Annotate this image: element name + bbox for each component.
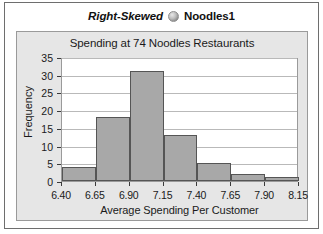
histogram-bar — [164, 135, 198, 181]
figure-card: Right-Skewed Noodles1 Spending at 74 Noo… — [4, 2, 319, 229]
y-tick-label: 25 — [27, 88, 53, 98]
histogram-bar — [231, 174, 265, 181]
x-tick-mark — [298, 182, 299, 186]
x-tick-mark — [95, 182, 96, 186]
x-tick-mark — [163, 182, 164, 186]
x-tick-label: 7.40 — [179, 189, 213, 201]
x-tick-mark — [264, 182, 265, 186]
y-tick-label: 15 — [27, 124, 53, 134]
gridline — [62, 58, 297, 59]
header-right-label: Noodles1 — [184, 10, 235, 22]
gridline — [62, 76, 297, 77]
x-tick-label: 7.90 — [247, 189, 281, 201]
y-tick-label: 5 — [27, 159, 53, 169]
x-tick-label: 7.65 — [213, 189, 247, 201]
y-tick-label: 30 — [27, 71, 53, 81]
figure-header: Right-Skewed Noodles1 — [5, 3, 318, 29]
header-left-label: Right-Skewed — [88, 10, 163, 22]
gridline — [62, 93, 297, 94]
histogram-bar — [62, 167, 96, 181]
x-tick-mark — [230, 182, 231, 186]
chart-panel: Spending at 74 Noodles Restaurants Frequ… — [16, 31, 308, 221]
plot-wrapper: Frequency 05101520253035 6.406.656.907.1… — [17, 32, 307, 220]
histogram-bar — [197, 163, 231, 181]
screenshot-root: Right-Skewed Noodles1 Spending at 74 Noo… — [0, 0, 323, 234]
x-tick-mark — [196, 182, 197, 186]
x-tick-label: 8.15 — [281, 189, 315, 201]
histogram-bar — [265, 177, 299, 181]
y-tick-label: 10 — [27, 142, 53, 152]
histogram-bar — [130, 71, 164, 181]
histogram-bar — [96, 117, 130, 181]
x-tick-label: 6.65 — [78, 189, 112, 201]
x-tick-label: 7.15 — [146, 189, 180, 201]
x-tick-mark — [129, 182, 130, 186]
gridline — [62, 111, 297, 112]
x-tick-mark — [61, 182, 62, 186]
x-tick-label: 6.90 — [112, 189, 146, 201]
sphere-icon — [168, 11, 179, 22]
y-tick-label: 35 — [27, 53, 53, 63]
x-tick-label: 6.40 — [44, 189, 78, 201]
x-axis-title: Average Spending Per Customer — [61, 204, 298, 216]
y-tick-label: 0 — [27, 177, 53, 187]
y-tick-label: 20 — [27, 106, 53, 116]
plot-area — [61, 58, 298, 182]
